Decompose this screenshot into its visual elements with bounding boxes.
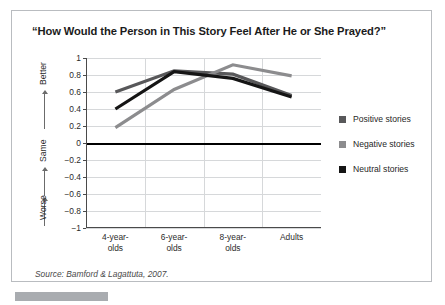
- y-axis-tick-label: −0.8: [64, 206, 81, 216]
- y-axis-tick-label: 1: [76, 53, 81, 63]
- x-axis-tick-label: 4-year-olds: [88, 232, 142, 253]
- source-text: Bamford & Lagattuta, 2007.: [64, 269, 169, 279]
- x-axis-tick-label: 8-year-olds: [206, 232, 260, 253]
- y-axis-tick-label: −0.6: [64, 189, 81, 199]
- legend-swatch-icon: [339, 141, 346, 148]
- legend-item: Positive stories: [339, 115, 439, 140]
- source-prefix: Source:: [35, 269, 64, 279]
- valence-arrow-up-icon: [44, 93, 45, 129]
- x-axis-tick-line: 4-year-: [88, 232, 142, 243]
- legend-item: Negative stories: [339, 140, 439, 165]
- under-tab-bar: [15, 292, 108, 301]
- y-axis-tick-label: −0.2: [64, 155, 81, 165]
- gridline-horizontal: [86, 228, 321, 229]
- x-axis-tick-label: Adults: [265, 232, 319, 243]
- y-axis-tick-label: −1: [71, 223, 81, 233]
- y-axis-tick-label: 0.6: [69, 87, 81, 97]
- figure-panel: “How Would the Person in This Story Feel…: [0, 0, 445, 305]
- legend-swatch-icon: [339, 166, 346, 173]
- valence-label-better: Better: [38, 58, 52, 89]
- x-axis-tick-line: olds: [147, 243, 201, 254]
- legend-label: Neutral stories: [353, 165, 408, 174]
- valence-axis: BetterSameWorse: [38, 58, 56, 228]
- y-axis-tick-mark: [83, 228, 86, 229]
- y-axis-tick-label: 0.4: [69, 104, 81, 114]
- legend-label: Negative stories: [353, 140, 415, 149]
- valence-label-same: Same: [38, 136, 52, 166]
- x-axis-tick-line: olds: [206, 243, 260, 254]
- x-axis-tick-line: 6-year-: [147, 232, 201, 243]
- chart-card: “How Would the Person in This Story Feel…: [11, 10, 432, 282]
- x-axis-tick-line: olds: [88, 243, 142, 254]
- legend: Positive storiesNegative storiesNeutral …: [339, 115, 439, 190]
- series-layer: [86, 58, 321, 228]
- y-axis-tick-label: 0.8: [69, 70, 81, 80]
- x-axis-tick-line: 8-year-: [206, 232, 260, 243]
- y-axis-tick-label: 0.2: [69, 121, 81, 131]
- source-note: Source: Bamford & Lagattuta, 2007.: [35, 269, 169, 279]
- x-axis-tick-line: Adults: [265, 232, 319, 243]
- legend-label: Positive stories: [353, 115, 411, 124]
- y-axis-tick-label: 0: [76, 138, 81, 148]
- legend-swatch-icon: [339, 116, 346, 123]
- valence-label-worse: Worse: [38, 190, 52, 226]
- chart-title: “How Would the Person in This Story Feel…: [32, 25, 422, 37]
- x-axis-tick-label: 6-year-olds: [147, 232, 201, 253]
- plot-area: 10.80.60.40.20−0.2−0.4−0.6−0.8−1 4-year-…: [86, 58, 321, 228]
- legend-item: Neutral stories: [339, 165, 439, 190]
- y-axis-tick-label: −0.4: [64, 172, 81, 182]
